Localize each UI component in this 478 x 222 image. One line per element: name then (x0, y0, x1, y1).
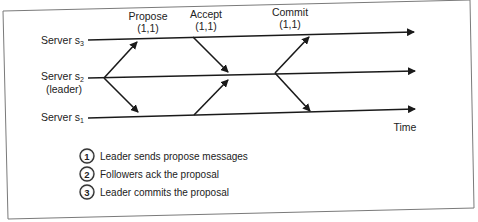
phase-commit-tuple: (1,1) (279, 18, 301, 30)
phase-commit-label: Commit (272, 6, 308, 18)
phase-accept-tuple: (1,1) (195, 20, 217, 32)
legend-item-1: 1 Leader sends propose messages (80, 149, 248, 163)
legend-text-1: Leader sends propose messages (100, 151, 248, 162)
server-s1-label: Server s1 (41, 111, 84, 124)
legend-text-3: Leader commits the proposal (100, 187, 229, 198)
legend-item-3: 3 Leader commits the proposal (80, 185, 229, 199)
svg-text:1: 1 (84, 151, 90, 162)
phase-propose-tuple: (1,1) (137, 22, 159, 34)
server-s2-label: Server s2 (41, 70, 84, 83)
svg-text:2: 2 (84, 169, 89, 180)
diagram-canvas: Propose (1,1) Accept (1,1) Commit (1,1) … (0, 0, 478, 222)
legend-text-2: Followers ack the proposal (100, 169, 219, 180)
phase-propose-label: Propose (128, 10, 167, 22)
server-s2-role: (leader) (46, 83, 82, 95)
svg-text:3: 3 (84, 187, 89, 198)
server-s3-label: Server s3 (41, 34, 84, 47)
legend-item-2: 2 Followers ack the proposal (80, 167, 219, 181)
phase-accept-label: Accept (190, 8, 222, 20)
time-axis-label: Time (394, 121, 417, 133)
